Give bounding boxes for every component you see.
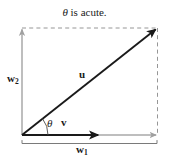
vector-u-arrow bbox=[22, 30, 156, 136]
label-vector-w1: w1 bbox=[76, 144, 88, 156]
vector-diagram-canvas bbox=[0, 0, 169, 160]
label-w2-subscript: 2 bbox=[15, 77, 19, 86]
title-remainder: is acute. bbox=[68, 6, 107, 18]
label-w1-subscript: 1 bbox=[84, 148, 88, 157]
label-vector-w2: w2 bbox=[7, 73, 19, 85]
label-w1-base: w bbox=[76, 143, 84, 155]
figure-title: θ is acute. bbox=[0, 7, 169, 18]
label-w2-base: w bbox=[7, 72, 15, 84]
label-theta-angle: θ bbox=[47, 118, 52, 129]
vector-decomposition-figure: θ is acute. w2 w1 u v θ bbox=[0, 0, 169, 160]
w1-span-brace bbox=[22, 141, 157, 144]
label-vector-u: u bbox=[79, 69, 85, 80]
label-vector-v: v bbox=[61, 117, 67, 128]
